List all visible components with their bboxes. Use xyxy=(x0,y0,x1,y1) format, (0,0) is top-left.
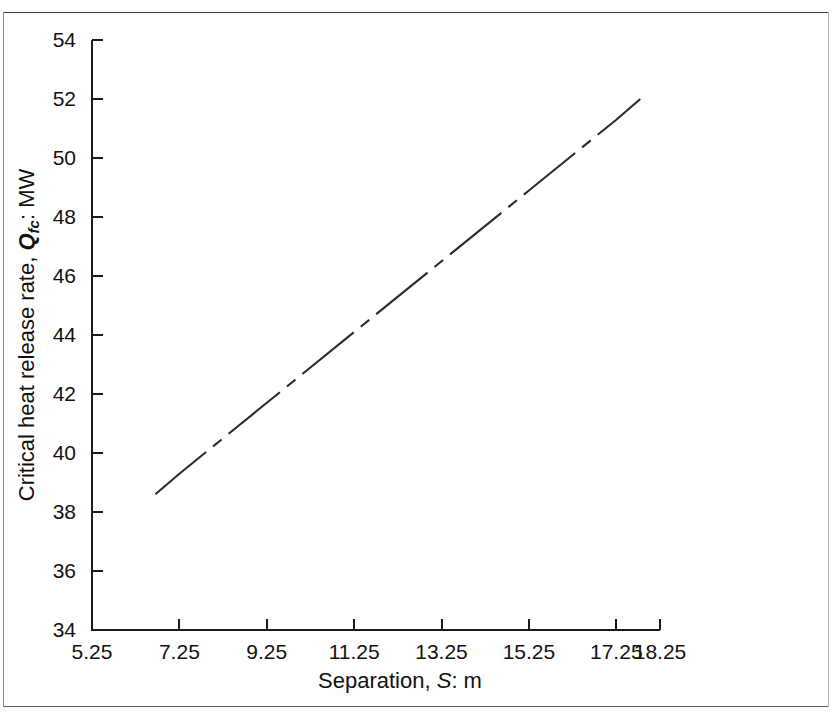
y-axis-tick-label: 34 xyxy=(53,618,77,641)
y-axis-tick-label: 38 xyxy=(53,500,76,523)
y-axis-title: Critical heat release rate, Qfc: MW xyxy=(14,169,42,502)
x-axis-tick-label: 13.25 xyxy=(415,640,468,663)
y-axis-tick-label: 52 xyxy=(53,87,76,110)
y-axis-ticks xyxy=(92,40,103,630)
line-chart: 3436384042444648505254 5.257.259.2511.25… xyxy=(0,0,835,719)
y-axis-tick-label: 42 xyxy=(53,382,76,405)
y-axis-tick-label: 36 xyxy=(53,559,76,582)
x-axis-tick-label: 5.25 xyxy=(72,640,113,663)
figure-page: 3436384042444648505254 5.257.259.2511.25… xyxy=(0,0,835,719)
y-axis-tick-label: 50 xyxy=(53,146,76,169)
axis-frame xyxy=(92,40,660,630)
y-axis-tick-label: 40 xyxy=(53,441,76,464)
x-axis-ticks xyxy=(92,619,660,630)
x-axis-title: Separation, S: m xyxy=(318,668,482,693)
data-series-line xyxy=(155,99,640,494)
x-axis-tick-label: 18.25 xyxy=(634,640,687,663)
x-axis-tick-label: 11.25 xyxy=(329,640,380,663)
x-axis-tick-label: 15.25 xyxy=(503,640,556,663)
y-axis-tick-label: 44 xyxy=(53,323,77,346)
y-axis-tick-label: 48 xyxy=(53,205,76,228)
y-axis-tick-label: 54 xyxy=(53,28,77,51)
y-axis-tick-labels: 3436384042444648505254 xyxy=(53,28,77,641)
x-axis-tick-labels: 5.257.259.2511.2513.2515.2517.2518.25 xyxy=(72,640,687,663)
y-axis-tick-label: 46 xyxy=(53,264,76,287)
x-axis-tick-label: 9.25 xyxy=(246,640,287,663)
x-axis-tick-label: 7.25 xyxy=(159,640,200,663)
